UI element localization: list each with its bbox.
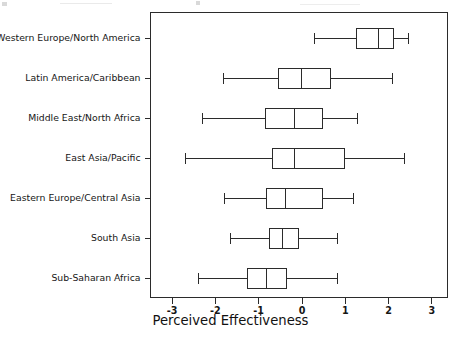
plot-frame	[151, 13, 448, 298]
category-label-6: Sub-Saharan Africa	[51, 273, 140, 283]
category-label-5: South Asia	[91, 233, 140, 243]
x-axis-title: Perceived Effectiveness	[0, 313, 461, 328]
category-label-2: Middle East/North Africa	[28, 113, 140, 123]
category-label-3: East Asia/Pacific	[65, 153, 140, 163]
category-label-4: Eastern Europe/Central Asia	[10, 193, 140, 203]
category-label-1: Latin America/Caribbean	[25, 73, 140, 83]
category-label-0: Western Europe/North America	[0, 33, 141, 43]
plot-canvas	[0, 0, 461, 341]
box-3	[273, 148, 344, 168]
boxplot-figure: Western Europe/North AmericaLatin Americ…	[0, 0, 461, 341]
box-0	[357, 28, 394, 48]
box-4	[267, 188, 323, 208]
box-5	[270, 228, 298, 248]
box-1	[278, 68, 330, 88]
